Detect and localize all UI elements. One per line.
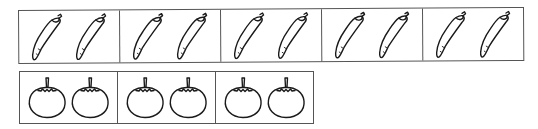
peppers-group-box [119, 10, 220, 63]
tomatoes-group-box [117, 72, 215, 123]
tomato-icon [125, 76, 165, 120]
chili-pepper-icon [74, 12, 108, 60]
chili-pepper-icon [175, 12, 209, 60]
peppers-group-box [220, 9, 321, 62]
chili-pepper-icon [434, 10, 468, 58]
pepper-row [18, 7, 524, 64]
tomato-icon [70, 76, 110, 120]
chili-pepper-icon [276, 11, 310, 59]
peppers-group-box [19, 10, 119, 63]
chili-pepper-icon [232, 11, 266, 59]
tomato-icon [27, 76, 67, 120]
chili-pepper-icon [478, 10, 512, 58]
peppers-group-box [422, 8, 523, 61]
tomato-row [19, 71, 314, 124]
chili-pepper-icon [131, 12, 165, 60]
chili-pepper-icon [30, 13, 64, 61]
chili-pepper-icon [333, 11, 367, 59]
peppers-group-box [321, 9, 422, 62]
tomatoes-group-box [215, 72, 313, 123]
tomato-icon [266, 76, 306, 120]
chili-pepper-icon [377, 11, 411, 59]
tomato-icon [168, 76, 208, 120]
tomatoes-group-box [20, 72, 117, 123]
tomato-icon [223, 76, 263, 120]
